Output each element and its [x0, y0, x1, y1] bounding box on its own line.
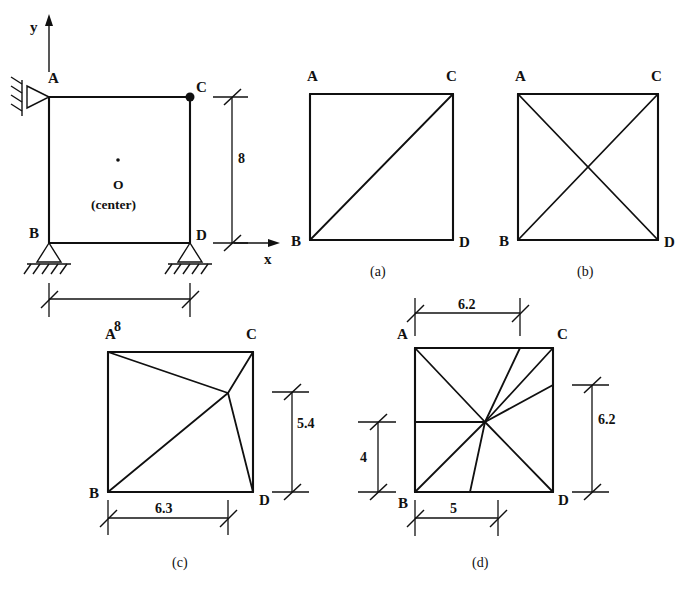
center-label-o: O: [113, 177, 124, 192]
panel-a-label-d: D: [459, 234, 470, 250]
dimension-panel-d-right-height: 6.2: [572, 377, 616, 500]
panel-a-label-b: B: [291, 233, 301, 249]
panel-b-caption: (b): [577, 264, 594, 280]
dimension-panel-d-top-width-value: 6.2: [458, 297, 476, 312]
joint-label-b: B: [29, 225, 39, 241]
panel-d-bracing: [415, 348, 553, 492]
panel-b-label-b: B: [499, 233, 509, 249]
panel-c-label-a: A: [105, 326, 116, 342]
center-label-sub: (center): [91, 197, 136, 212]
support-b: [24, 243, 71, 274]
panel-a-caption: (a): [370, 264, 386, 280]
dimension-panel-d-bottom-width-value: 5: [450, 501, 457, 516]
main-frame-group: y x: [11, 14, 280, 334]
pin-support-a: [11, 77, 49, 116]
frame-members: [49, 97, 190, 243]
panel-a-group: A B C D (a): [291, 68, 470, 280]
joint-label-d: D: [196, 227, 207, 243]
panel-c-label-b: B: [89, 485, 99, 501]
panel-c-label-d: D: [259, 492, 270, 508]
panel-d-label-b: B: [398, 495, 408, 511]
joint-label-a: A: [48, 70, 59, 86]
dimension-frame-height-value: 8: [238, 151, 245, 166]
panel-b-label-c: C: [651, 68, 662, 84]
joint-node-c: [186, 93, 195, 102]
dimension-panel-c-width-value: 6.3: [155, 501, 173, 516]
panel-d-label-c: C: [557, 326, 568, 342]
panel-b-label-a: A: [515, 68, 526, 84]
support-d: [165, 243, 212, 274]
panel-d-label-d: D: [558, 492, 569, 508]
panel-c-bracing: [108, 352, 253, 492]
figure-root: y x: [0, 0, 700, 612]
dimension-frame-height: 8: [213, 89, 248, 251]
dimension-panel-c-height-value: 5.4: [297, 416, 315, 431]
panel-b-label-d: D: [664, 234, 675, 250]
dimension-panel-d-bottom-width: 5: [407, 500, 507, 536]
dimension-panel-d-left-height-value: 4: [360, 450, 367, 465]
dimension-panel-d-right-height-value: 6.2: [598, 412, 616, 427]
panel-d-group: A B C D 6.2 6.2: [358, 297, 616, 571]
engineering-figure: y x: [0, 0, 700, 612]
panel-a-label-a: A: [307, 68, 318, 84]
dimension-panel-d-top-width: 6.2: [407, 297, 529, 336]
dimension-panel-c-width: 6.3: [100, 500, 237, 535]
panel-c-label-c: C: [246, 326, 257, 342]
panel-d-caption: (d): [472, 555, 489, 571]
panel-c-caption: (c): [172, 555, 188, 571]
panel-b-group: A B C D (b): [499, 68, 675, 280]
panel-c-group: A B C D 5.4 6.3 (c): [89, 326, 315, 571]
y-axis-label: y: [30, 19, 38, 35]
y-axis-arrow: [45, 14, 53, 72]
x-axis-label: x: [264, 251, 272, 267]
dimension-panel-c-height: 5.4: [272, 384, 315, 500]
panel-a-label-c: C: [446, 68, 457, 84]
panel-a-diagonal-bc: [310, 94, 453, 240]
panel-c-square: [108, 352, 253, 492]
dimension-panel-d-left-height: 4: [358, 414, 396, 500]
center-dot: [116, 158, 120, 162]
panel-d-label-a: A: [397, 326, 408, 342]
dimension-frame-width: 8: [41, 283, 199, 334]
joint-label-c: C: [196, 79, 207, 95]
